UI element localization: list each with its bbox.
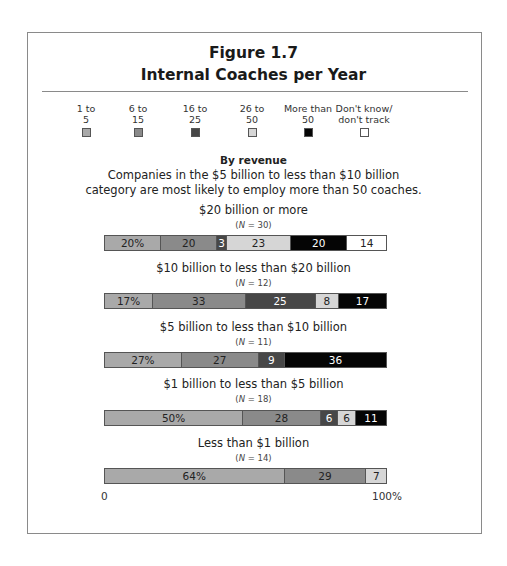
legend-label-line2: 15 bbox=[108, 114, 168, 125]
legend-label-line2: 50 bbox=[222, 114, 282, 125]
title-divider bbox=[42, 91, 468, 92]
legend-label-line1: More than bbox=[278, 103, 338, 114]
legend-item: 6 to15 bbox=[108, 103, 168, 137]
group-sample-size: (N = 14) bbox=[0, 453, 507, 463]
legend-item: 1 to5 bbox=[56, 103, 116, 137]
bar-segment: 33 bbox=[152, 294, 244, 308]
legend-swatch-icon bbox=[191, 128, 200, 137]
legend-swatch-icon bbox=[82, 128, 91, 137]
bar-segment: 27 bbox=[181, 353, 258, 367]
group-sample-size: (N = 12) bbox=[0, 278, 507, 288]
group-sample-size: (N = 18) bbox=[0, 394, 507, 404]
legend-item: More than50 bbox=[278, 103, 338, 137]
bar-segment: 50% bbox=[105, 411, 242, 425]
group-label: $10 billion to less than $20 billion bbox=[0, 261, 507, 275]
legend-label-line1: 1 to bbox=[56, 103, 116, 114]
legend-item: 16 to25 bbox=[165, 103, 225, 137]
bar-segment: 29 bbox=[284, 469, 366, 483]
chart-annotation: Companies in the $5 billion to less than… bbox=[0, 168, 507, 198]
bar-segment: 25 bbox=[245, 294, 315, 308]
bar-segment: 23 bbox=[226, 236, 290, 250]
legend-swatch-icon bbox=[134, 128, 143, 137]
legend-label-line2: 5 bbox=[56, 114, 116, 125]
legend-swatch-icon bbox=[304, 128, 313, 137]
legend-label-line2: 50 bbox=[278, 114, 338, 125]
legend-label-line2: don't track bbox=[334, 114, 394, 125]
group-label: $20 billion or more bbox=[0, 203, 507, 217]
bar-segment: 28 bbox=[242, 411, 320, 425]
annotation-line-2: category are most likely to employ more … bbox=[0, 183, 507, 198]
stacked-bar: 50%286611 bbox=[104, 410, 387, 426]
bar-segment: 17% bbox=[105, 294, 152, 308]
figure-title: Internal Coaches per Year bbox=[0, 66, 507, 84]
stacked-bar: 20%203232014 bbox=[104, 235, 387, 251]
bar-segment: 17 bbox=[338, 294, 386, 308]
bar-segment: 14 bbox=[346, 236, 386, 250]
legend-label-line1: Don't know/ bbox=[334, 103, 394, 114]
stacked-bar: 64%297 bbox=[104, 468, 387, 484]
legend-item: Don't know/don't track bbox=[334, 103, 394, 137]
bar-segment: 20 bbox=[160, 236, 216, 250]
group-sample-size: (N = 30) bbox=[0, 220, 507, 230]
bar-segment: 20 bbox=[290, 236, 346, 250]
bar-segment: 7 bbox=[365, 469, 386, 483]
bar-segment: 64% bbox=[105, 469, 284, 483]
bar-segment: 9 bbox=[258, 353, 284, 367]
bar-segment: 11 bbox=[355, 411, 386, 425]
section-heading: By revenue bbox=[0, 154, 507, 166]
figure-number: Figure 1.7 bbox=[0, 44, 507, 62]
axis-max-label: 100% bbox=[372, 490, 402, 502]
bar-segment: 6 bbox=[337, 411, 354, 425]
bar-segment: 36 bbox=[284, 353, 386, 367]
bar-segment: 27% bbox=[105, 353, 181, 367]
axis-min-label: 0 bbox=[101, 490, 108, 502]
legend-swatch-icon bbox=[360, 128, 369, 137]
group-label: Less than $1 billion bbox=[0, 436, 507, 450]
bar-segment: 8 bbox=[315, 294, 338, 308]
legend-label-line1: 16 to bbox=[165, 103, 225, 114]
group-sample-size: (N = 11) bbox=[0, 337, 507, 347]
legend-swatch-icon bbox=[248, 128, 257, 137]
bar-segment: 6 bbox=[320, 411, 337, 425]
legend-label-line1: 6 to bbox=[108, 103, 168, 114]
stacked-bar: 17%3325817 bbox=[104, 293, 387, 309]
bar-segment: 3 bbox=[216, 236, 225, 250]
legend-label-line2: 25 bbox=[165, 114, 225, 125]
group-label: $5 billion to less than $10 billion bbox=[0, 320, 507, 334]
legend-item: 26 to50 bbox=[222, 103, 282, 137]
annotation-line-1: Companies in the $5 billion to less than… bbox=[0, 168, 507, 183]
legend-label-line1: 26 to bbox=[222, 103, 282, 114]
stacked-bar: 27%27936 bbox=[104, 352, 387, 368]
group-label: $1 billion to less than $5 billion bbox=[0, 377, 507, 391]
bar-segment: 20% bbox=[105, 236, 160, 250]
